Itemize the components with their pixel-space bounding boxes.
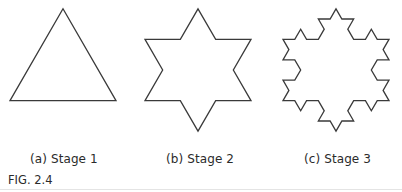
figure-caption: FIG. 2.4 (8, 173, 53, 187)
stage-3-label: (c) Stage 3 (304, 152, 371, 166)
stage-1-triangle (10, 9, 116, 101)
stage-2-label: (b) Stage 2 (166, 152, 234, 166)
stage-2-star (145, 9, 251, 131)
stage-1-label: (a) Stage 1 (30, 152, 98, 166)
stage-3-snowflake (283, 9, 389, 131)
divider-line (0, 189, 402, 190)
